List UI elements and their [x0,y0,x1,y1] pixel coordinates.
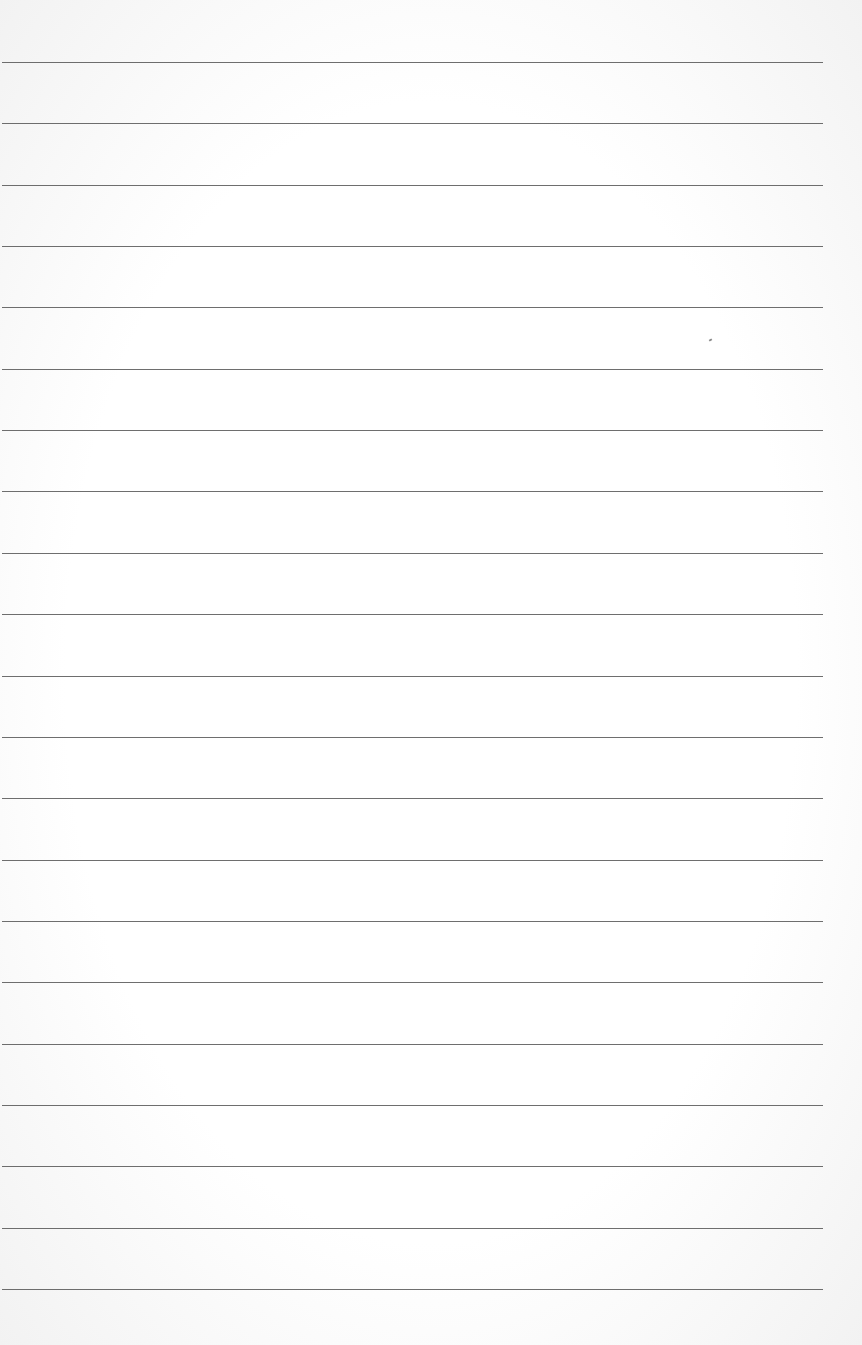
ruled-line [2,614,823,615]
ruled-line [2,1289,823,1290]
ruled-line [2,62,823,63]
ruled-line [2,676,823,677]
ruled-line [2,553,823,554]
ruled-line [2,1166,823,1167]
ruled-line [2,798,823,799]
ruled-line [2,1044,823,1045]
lined-paper-sheet [0,0,862,1345]
ruled-line [2,491,823,492]
ruled-line [2,430,823,431]
paper-speck [709,338,713,341]
ruled-line [2,860,823,861]
ruled-line [2,737,823,738]
ruled-line [2,307,823,308]
ruled-line [2,185,823,186]
ruled-line [2,369,823,370]
ruled-line [2,1228,823,1229]
ruled-line [2,246,823,247]
ruled-line [2,123,823,124]
ruled-line [2,1105,823,1106]
ruled-line [2,921,823,922]
ruled-line [2,982,823,983]
